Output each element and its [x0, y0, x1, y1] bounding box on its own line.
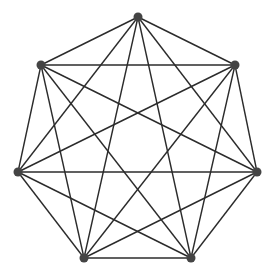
vertex-v4	[187, 254, 196, 263]
edge-v2-v6	[18, 65, 235, 172]
edge-v1-v4	[138, 17, 191, 258]
vertex-v5	[80, 254, 89, 263]
vertices	[14, 13, 262, 263]
edge-v3-v5	[84, 172, 257, 258]
edge-v4-v7	[41, 65, 191, 258]
vertex-v2	[231, 61, 240, 70]
vertex-v7	[37, 61, 46, 70]
edge-v1-v3	[138, 17, 257, 172]
vertex-v1	[134, 13, 143, 22]
complete-graph-diagram	[0, 0, 273, 270]
edge-v3-v7	[41, 65, 257, 172]
edge-v6-v7	[18, 65, 41, 172]
vertex-v6	[14, 168, 23, 177]
edge-v1-v2	[138, 17, 235, 65]
edge-v2-v3	[235, 65, 257, 172]
edge-v4-v6	[18, 172, 191, 258]
edges	[18, 17, 257, 258]
vertex-v3	[253, 168, 262, 177]
edge-v1-v7	[41, 17, 138, 65]
edge-v1-v5	[84, 17, 138, 258]
